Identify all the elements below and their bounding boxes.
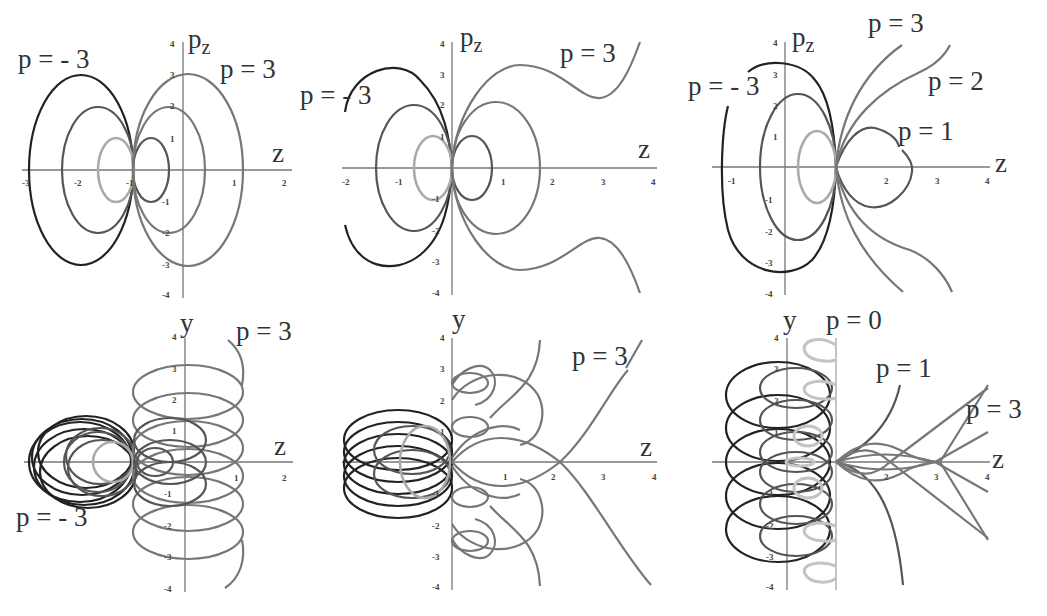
xtick: -1 <box>395 177 403 187</box>
xlabel: z <box>274 431 286 461</box>
annotation-p-0: p = 0 <box>826 305 882 335</box>
panel-top-right: -1 2 3 4 4 3 2 1 -1 -2 -3 -4 z pz p = - … <box>688 8 1007 299</box>
xlabel: z <box>638 134 650 164</box>
ytick: -1 <box>432 194 440 204</box>
ylabel-main: p <box>792 22 806 52</box>
xtick: 1 <box>234 473 239 483</box>
ylabel-sub: z <box>806 34 815 56</box>
xtick: 1 <box>501 177 506 187</box>
xtick: 4 <box>985 472 990 482</box>
ytick: 2 <box>440 100 445 110</box>
xtick: -2 <box>342 177 350 187</box>
ytick: 2 <box>774 396 779 406</box>
ytick: -1 <box>164 489 172 499</box>
xlabel: z <box>640 432 652 462</box>
xtick: 3 <box>601 472 606 482</box>
ytick: 3 <box>774 364 779 374</box>
annotation-p-minus-3: p = - 3 <box>300 80 371 110</box>
xtick: 4 <box>985 176 990 186</box>
ylabel: y <box>180 308 194 338</box>
xtick: 4 <box>652 472 657 482</box>
xtick: 2 <box>550 177 555 187</box>
ytick: -4 <box>432 288 440 298</box>
annotation-p-3: p = 3 <box>560 38 616 68</box>
ytick: -3 <box>765 258 773 268</box>
annotation-p-minus-3: p = - 3 <box>688 71 759 101</box>
xtick: 2 <box>884 176 889 186</box>
ytick: 1 <box>170 134 175 144</box>
p-3-slash <box>626 340 642 368</box>
ytick: 2 <box>773 101 778 111</box>
ytick: 4 <box>774 333 779 343</box>
annotation-p-1: p = 1 <box>898 116 954 146</box>
ytick: -4 <box>432 582 440 592</box>
xtick: 3 <box>934 472 939 482</box>
ytick: 3 <box>773 70 778 80</box>
ytick: 3 <box>170 70 175 80</box>
ylabel-main: p <box>188 24 202 54</box>
xtick: 1 <box>503 472 508 482</box>
ylabel-sub: z <box>202 36 211 58</box>
ytick: 4 <box>172 332 177 342</box>
annotation-p-3: p = 3 <box>220 54 276 84</box>
ylabel: y <box>783 305 797 335</box>
ylabel-main: p <box>460 22 474 52</box>
ylabel: pz <box>188 24 211 58</box>
xtick: -1 <box>126 178 134 188</box>
ytick: -1 <box>162 197 170 207</box>
ytick: 1 <box>774 427 779 437</box>
panel-bottom-middle: 1 2 3 4 4 3 2 1 -1 -2 -3 -4 z y p = 3 <box>342 304 657 592</box>
panel-bottom-right: 2 3 4 4 3 2 1 -1 -2 -3 -4 z y p = 0 p = … <box>712 305 1022 592</box>
ytick: -2 <box>162 228 170 238</box>
xtick: 4 <box>651 177 656 187</box>
figure: -3 -2 -1 1 2 4 3 2 1 -1 -2 -3 -4 z pz p … <box>0 0 1047 616</box>
ytick: 1 <box>440 427 445 437</box>
xtick: -2 <box>74 178 82 188</box>
ytick: -4 <box>164 584 172 594</box>
ytick: 4 <box>440 333 445 343</box>
ytick: 1 <box>172 426 177 436</box>
curve-p-2 <box>836 45 950 167</box>
ytick: -3 <box>766 552 774 562</box>
xtick: 1 <box>232 178 237 188</box>
ytick: -3 <box>432 257 440 267</box>
ytick: 2 <box>172 395 177 405</box>
annotation-p-3: p = 3 <box>572 341 628 371</box>
ytick: 3 <box>440 70 445 80</box>
xtick: -1 <box>728 176 736 186</box>
ytick: -2 <box>766 521 774 531</box>
xlabel: z <box>272 138 284 168</box>
ytick: 4 <box>170 39 175 49</box>
ytick: 2 <box>440 396 445 406</box>
ytick: 2 <box>170 101 175 111</box>
annotation-p-1: p = 1 <box>876 353 932 383</box>
annotation-p-2: p = 2 <box>928 66 984 96</box>
ytick: -4 <box>162 290 170 300</box>
annotation-p-3: p = 3 <box>868 8 924 38</box>
ytick: -3 <box>162 260 170 270</box>
ylabel: pz <box>460 22 483 56</box>
ytick: -1 <box>432 489 440 499</box>
ytick: -2 <box>432 521 440 531</box>
xlabel: z <box>992 444 1004 474</box>
xtick: 3 <box>935 176 940 186</box>
ytick: 1 <box>440 132 445 142</box>
panel-bottom-left: 1 2 4 3 2 1 -1 -2 -3 -4 z y p = 3 p = - … <box>16 308 293 594</box>
ytick: 4 <box>773 38 778 48</box>
xlabel: z <box>995 148 1007 178</box>
xtick: 2 <box>551 472 556 482</box>
panel-top-middle: -2 -1 1 2 3 4 4 3 2 1 -1 -2 -3 -4 z pz p… <box>300 22 657 298</box>
panel-top-left: -3 -2 -1 1 2 4 3 2 1 -1 -2 -3 -4 z pz p … <box>18 24 292 300</box>
ylabel-sub: z <box>474 34 483 56</box>
ytick: -2 <box>765 227 773 237</box>
annotation-p-minus-3: p = - 3 <box>16 502 87 532</box>
ytick: -4 <box>766 582 774 592</box>
ytick: 3 <box>440 364 445 374</box>
annotation-p-3: p = 3 <box>966 394 1022 424</box>
xtick: 2 <box>884 472 889 482</box>
ytick: 4 <box>440 39 445 49</box>
annotation-p-minus-3: p = - 3 <box>18 44 89 74</box>
curve-p-3 <box>133 340 243 588</box>
curve-p-1-2 <box>452 340 542 586</box>
ytick: -3 <box>432 552 440 562</box>
